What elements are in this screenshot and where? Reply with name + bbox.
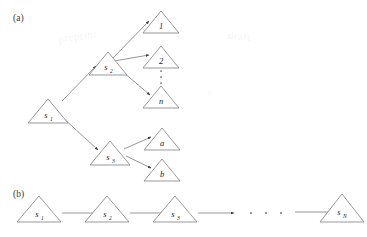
node-s2-subscript: 2 [110,68,113,74]
node-leaf-b-label: b [160,169,164,179]
panel-a-label: (a) [13,13,24,24]
node-s1[interactable]: s 1 [28,99,68,123]
node-leaf-a[interactable]: a [144,128,180,150]
edge-s3-nb [126,156,151,168]
ellipsis-dot [250,212,252,214]
node-s3-subscript: 3 [111,158,115,164]
node-chain-s2[interactable]: s 2 [85,196,129,222]
figure-container: preprint draft v (a) s [0,0,367,237]
node-leaf-a-label: a [160,138,164,148]
node-chain-s1[interactable]: s 1 [17,196,61,222]
edge-s2-n2 [114,55,149,61]
triangle-shape [153,196,197,222]
ellipsis-dot [265,212,267,214]
triangle-shape [89,52,127,75]
triangle-shape [28,99,68,123]
ellipsis-dot [280,212,282,214]
diagram-canvas: (a) s 1 s 2 [0,0,367,237]
triangle-shape [85,196,129,222]
node-leaf-n-label: n [159,96,163,106]
node-leaf-1-label: 1 [159,21,163,31]
ellipsis-dot [160,76,162,78]
node-s1-subscript: 1 [50,116,53,122]
panel-a-group: (a) s 1 s 2 [13,11,180,181]
node-leaf-2[interactable]: 2 [143,46,179,68]
horizontal-ellipsis [250,212,282,214]
vertical-ellipsis [160,70,162,84]
triangle-shape [90,141,130,165]
panel-b-label: (b) [13,189,24,200]
node-chain-s1-subscript: 1 [41,215,44,221]
edge-s2-n1 [113,21,149,58]
ellipsis-dot [160,70,162,72]
node-leaf-n[interactable]: n [143,86,179,108]
node-chain-s3[interactable]: s 3 [153,196,197,222]
node-s2[interactable]: s 2 [89,52,127,75]
node-chain-sN[interactable]: s N [320,194,364,222]
panel-b-group: (b) s 1 s 2 s 3 [13,189,364,222]
node-leaf-b[interactable]: b [144,159,180,181]
node-s3[interactable]: s 3 [90,141,130,165]
node-chain-sN-subscript: N [342,213,347,219]
edge-s1-s2 [62,66,96,101]
node-chain-s2-subscript: 2 [109,215,112,221]
node-chain-s3-subscript: 3 [176,215,180,221]
triangle-shape [17,196,61,222]
ellipsis-dot [160,82,162,84]
triangle-shape [320,194,364,222]
